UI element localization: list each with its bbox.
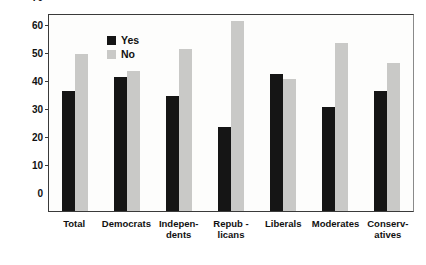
bar-group	[309, 15, 361, 211]
y-axis-tick-label: 40	[26, 77, 43, 87]
x-axis-label-text: Democrats	[102, 218, 151, 229]
y-axis-tick-label: 20	[26, 133, 43, 143]
bar-yes[interactable]	[322, 107, 335, 211]
bar-chart: Percent 010203040506070 YesNo TotalDemoc…	[0, 0, 426, 265]
x-axis-label-text: Liberals	[265, 218, 301, 229]
bar-no[interactable]	[387, 63, 400, 211]
plot-area: 010203040506070 YesNo	[48, 14, 414, 212]
x-axis-label: Conserv- atives	[362, 213, 414, 261]
bar-no[interactable]	[335, 43, 348, 211]
x-axis-label: Democrats	[100, 213, 152, 261]
bar-yes[interactable]	[62, 91, 75, 211]
bar-yes[interactable]	[218, 127, 231, 211]
legend-item-label: Yes	[121, 35, 139, 46]
x-axis-label-text: Total	[63, 218, 85, 229]
bar-no[interactable]	[75, 54, 88, 211]
bar-yes[interactable]	[270, 74, 283, 211]
y-axis-tick-label: 0	[26, 189, 43, 199]
legend-item[interactable]: No	[107, 49, 139, 60]
x-axis-label-text: Repub - licans	[213, 218, 248, 240]
bar-yes[interactable]	[374, 91, 387, 211]
y-axis-tick: 40	[26, 72, 49, 90]
bar-no[interactable]	[127, 71, 140, 211]
bar-group	[205, 15, 257, 211]
y-axis-tick-label: 60	[26, 21, 43, 31]
x-axis-label-text: Conserv- atives	[367, 218, 408, 240]
y-axis-tick-label: 10	[26, 161, 43, 171]
bar-group	[49, 15, 101, 211]
legend-item[interactable]: Yes	[107, 35, 139, 46]
x-axis-label: Indepen- dents	[153, 213, 205, 261]
y-axis-tick: 50	[26, 44, 49, 62]
bar-yes[interactable]	[114, 77, 127, 211]
x-axis-label: Moderates	[309, 213, 361, 261]
y-axis-tick: 10	[26, 156, 49, 174]
x-axis-label: Repub - licans	[205, 213, 257, 261]
legend-item-label: No	[121, 49, 135, 60]
bar-yes[interactable]	[166, 96, 179, 211]
bars-area	[49, 15, 413, 211]
y-axis-tick: 30	[26, 100, 49, 118]
x-axis-label-text: Indepen- dents	[159, 218, 199, 240]
y-axis-tick: 70	[26, 0, 49, 6]
bar-no[interactable]	[231, 21, 244, 211]
bar-no[interactable]	[283, 79, 296, 211]
y-axis-tick-label: 70	[26, 0, 43, 3]
y-axis-tick-label: 50	[26, 49, 43, 59]
bar-group	[257, 15, 309, 211]
legend-swatch-icon	[107, 50, 116, 59]
x-axis-label-text: Moderates	[312, 218, 360, 229]
chart-legend: YesNo	[107, 35, 139, 60]
legend-swatch-icon	[107, 36, 116, 45]
bar-group	[153, 15, 205, 211]
y-axis-tick-label: 30	[26, 105, 43, 115]
bar-no[interactable]	[179, 49, 192, 211]
y-axis-tick: 20	[26, 128, 49, 146]
x-axis-labels: TotalDemocratsIndepen- dentsRepub - lica…	[48, 213, 414, 261]
y-axis-tick: 0	[26, 184, 49, 202]
x-axis-label: Liberals	[257, 213, 309, 261]
y-axis-tick: 60	[26, 16, 49, 34]
x-axis-label: Total	[48, 213, 100, 261]
bar-group	[361, 15, 413, 211]
